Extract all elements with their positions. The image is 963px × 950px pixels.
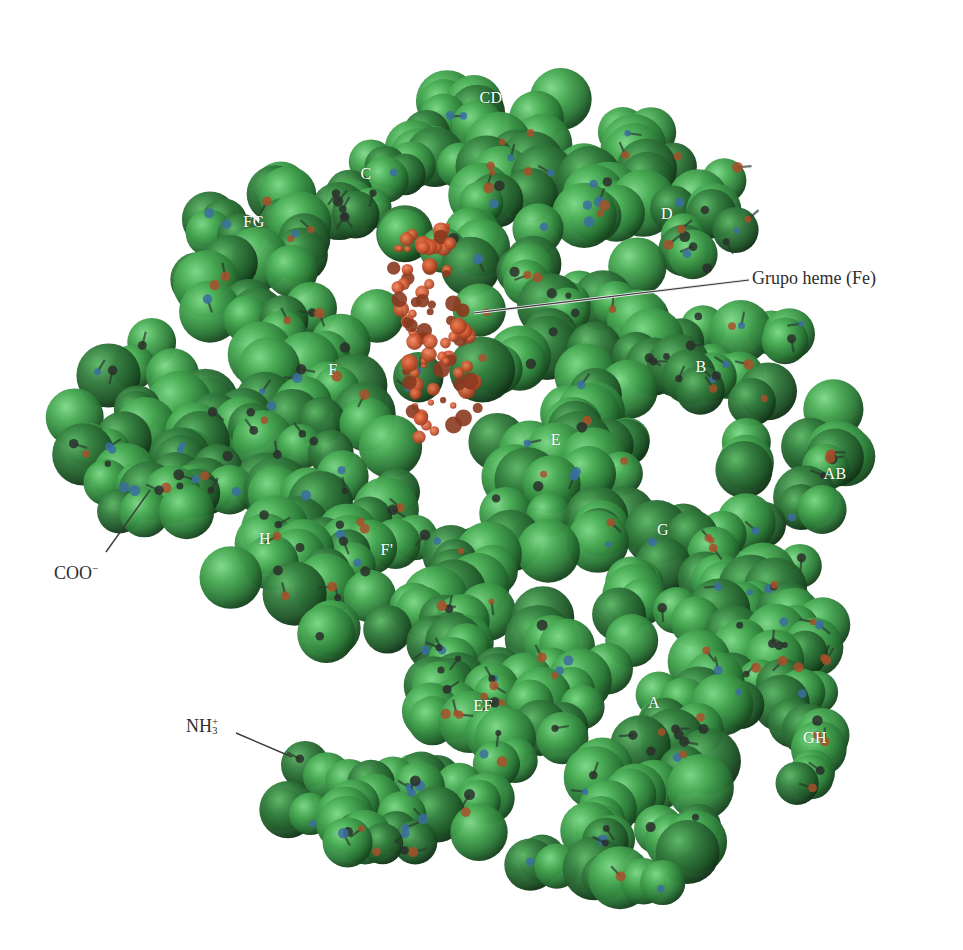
heme-group-label: Grupo heme (Fe) [752,268,876,289]
helix-label-ab: AB [823,465,846,483]
helix-label-g: G [657,521,669,539]
amino-terminus-label: NH+3 [186,717,218,737]
myoglobin-structure-figure [0,0,963,950]
helix-label-cd: CD [479,89,502,107]
subscript-count: 3 [212,726,218,735]
helix-label-d: D [661,205,673,223]
helix-label-b: B [695,358,706,376]
helix-label-fg: FG [243,213,264,231]
helix-label-gh: GH [803,729,827,747]
helix-label-f: F [328,361,337,379]
amino-terminus-text: NH [186,716,212,736]
helix-label-ef: EF [473,697,493,715]
helix-label-h: H [259,530,271,548]
helix-label-e: E [551,431,561,449]
helix-label-a: A [648,694,660,712]
charge-superscript: − [92,562,98,574]
carboxyl-terminus-text: COO [54,563,92,583]
carboxyl-terminus-label: COO− [54,562,98,584]
helix-label-c: C [360,165,371,183]
helix-label-f-prime: F' [381,541,394,559]
